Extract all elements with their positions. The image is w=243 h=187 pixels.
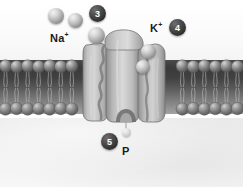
potassium-label-text: K bbox=[150, 22, 158, 34]
lipid-head-inner bbox=[198, 103, 210, 115]
sodium-charge: + bbox=[64, 31, 68, 38]
potassium-charge: + bbox=[158, 21, 162, 28]
sodium-ion bbox=[48, 8, 64, 24]
lipid-molecules bbox=[0, 50, 243, 122]
lipid-head-inner bbox=[0, 103, 12, 115]
lipid-head-outer bbox=[220, 60, 232, 72]
phosphate-label-text: P bbox=[122, 145, 130, 157]
phospholipid-bilayer bbox=[0, 50, 243, 122]
lipid-head-inner bbox=[10, 102, 22, 114]
phosphate-label: P bbox=[122, 146, 130, 157]
lipid-head-inner bbox=[209, 102, 221, 114]
step-badge-3-number: 3 bbox=[95, 9, 100, 19]
sodium-label: Na+ bbox=[50, 31, 69, 44]
lipid-head-outer bbox=[198, 60, 210, 72]
lipid-head-inner bbox=[176, 103, 188, 115]
lipid-head-outer bbox=[176, 60, 188, 72]
phosphate-group bbox=[122, 128, 131, 137]
potassium-ion bbox=[141, 44, 156, 59]
step-badge-5: 5 bbox=[101, 133, 118, 150]
sodium-ion bbox=[88, 27, 105, 44]
lipid-head-outer bbox=[187, 60, 199, 72]
lipid-head-inner bbox=[187, 102, 199, 114]
sodium-label-text: Na bbox=[50, 32, 64, 44]
lipid-head-outer bbox=[55, 60, 67, 72]
lipid-head-outer bbox=[10, 60, 22, 72]
step-badge-4-number: 4 bbox=[175, 23, 180, 33]
potassium-label: K+ bbox=[150, 21, 162, 34]
step-badge-3: 3 bbox=[89, 5, 106, 22]
lipid-head-inner bbox=[55, 102, 67, 114]
lipid-head-inner bbox=[21, 103, 33, 115]
lipid-head-outer bbox=[231, 60, 243, 72]
lipid-head-inner bbox=[231, 102, 243, 114]
step-badge-5-number: 5 bbox=[107, 137, 112, 147]
lipid-head-inner bbox=[44, 103, 56, 115]
lipid-head-outer bbox=[0, 60, 12, 72]
step-badge-4: 4 bbox=[169, 19, 186, 36]
lipid-head-inner bbox=[32, 102, 44, 114]
lipid-head-outer bbox=[209, 60, 221, 72]
lipid-head-inner bbox=[220, 103, 232, 115]
membrane-transport-figure: Na+ K+ P 3 4 5 bbox=[0, 0, 243, 187]
sodium-ion bbox=[68, 13, 83, 28]
lipid-head-outer bbox=[21, 60, 33, 72]
potassium-ion bbox=[136, 60, 150, 74]
lipid-head-outer bbox=[32, 60, 44, 72]
lipid-head-inner bbox=[66, 103, 78, 115]
lipid-head-outer bbox=[66, 60, 78, 72]
lipid-head-outer bbox=[44, 60, 56, 72]
